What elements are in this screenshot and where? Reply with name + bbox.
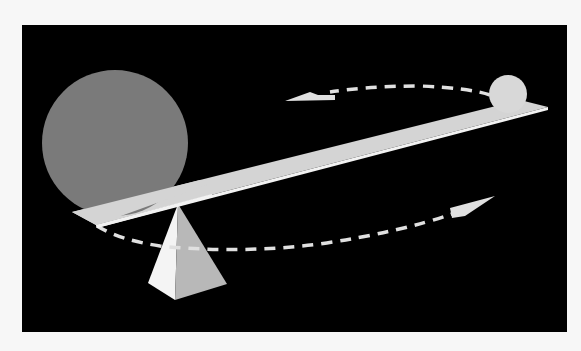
lever-diagram: [0, 0, 581, 351]
small-sphere: [489, 75, 527, 113]
